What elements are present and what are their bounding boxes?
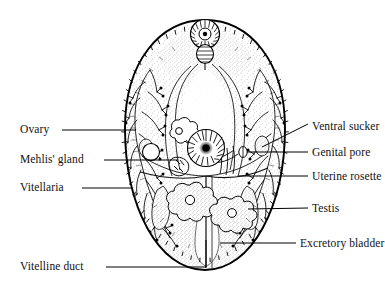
label-excretory-bladder: Excretory bladder xyxy=(300,237,384,250)
label-uterine-rosette: Uterine rosette xyxy=(312,170,382,183)
label-testis: Testis xyxy=(312,202,339,215)
label-ovary: Ovary xyxy=(20,123,49,136)
label-genital-pore: Genital pore xyxy=(312,146,370,159)
genital-pore xyxy=(239,147,247,158)
figure-root: Ovary Mehlis' gland Vitellaria Vitelline… xyxy=(0,0,385,289)
ventral-sucker xyxy=(188,130,225,167)
label-ventral-sucker: Ventral sucker xyxy=(312,120,380,133)
ovary xyxy=(143,144,160,161)
pharynx xyxy=(197,45,214,64)
label-mehlis-gland: Mehlis' gland xyxy=(20,153,84,166)
label-vitellaria: Vitellaria xyxy=(20,181,64,194)
label-vitelline-duct: Vitelline duct xyxy=(20,260,84,273)
